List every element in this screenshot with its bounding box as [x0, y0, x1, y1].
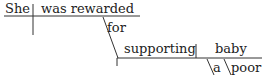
- modifier-poor-slant: [224, 59, 231, 75]
- gerund-object-word: baby: [215, 42, 247, 55]
- sentence-diagram: She was rewarded for supporting baby a p…: [0, 0, 269, 79]
- modifier-a-word: a: [213, 61, 221, 74]
- verb-word: was rewarded: [41, 2, 134, 15]
- modifier-poor-word: poor: [231, 61, 261, 74]
- subject-word: She: [5, 2, 30, 15]
- preposition-word: for: [107, 21, 126, 34]
- object-word: supporting: [124, 42, 196, 55]
